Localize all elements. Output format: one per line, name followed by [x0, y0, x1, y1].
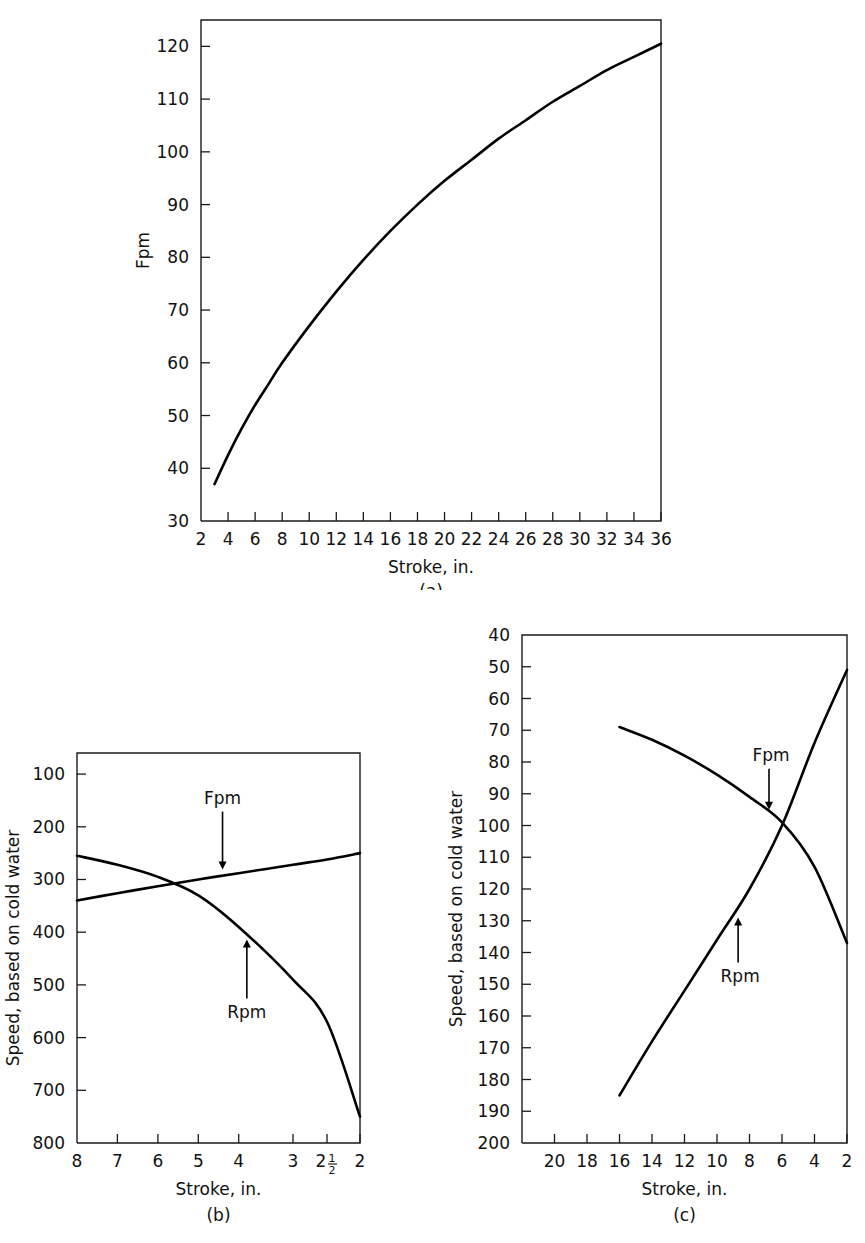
- y-tick-label-c: 170: [478, 1038, 510, 1058]
- series-label-rpm-b: Rpm: [227, 1002, 266, 1022]
- curve-rpm-b: [77, 856, 360, 1117]
- chart-panel-a: 3040506070809010011012024681012141618202…: [0, 0, 865, 590]
- y-tick-label-c: 110: [478, 847, 510, 867]
- x-tick-label-c: 4: [809, 1151, 820, 1171]
- curve-rpm-c: [620, 670, 848, 1095]
- y-tick-label-b: 100: [33, 764, 65, 784]
- rpm-arrow-b-head: [243, 939, 251, 947]
- curve-fpm-a: [215, 44, 661, 484]
- y-tick-label-b: 800: [33, 1133, 65, 1153]
- y-tick-label-a: 120: [157, 36, 189, 56]
- y-tick-label-a: 70: [167, 300, 189, 320]
- y-tick-label-a: 80: [167, 247, 189, 267]
- panel-caption-b: (b): [206, 1205, 230, 1225]
- y-tick-label-c: 150: [478, 974, 510, 994]
- figure-container: 3040506070809010011012024681012141618202…: [0, 0, 865, 1243]
- y-axis-title-c: Speed, based on cold water: [446, 791, 466, 1028]
- x-tick-label-c: 20: [544, 1151, 566, 1171]
- x-tick-label-c: 14: [641, 1151, 663, 1171]
- series-label-rpm-c: Rpm: [721, 966, 760, 986]
- series-label-fpm-b: Fpm: [204, 788, 241, 808]
- x-tick-label-b: 3: [288, 1151, 299, 1171]
- y-tick-label-a: 50: [167, 406, 189, 426]
- y-tick-label-c: 180: [478, 1070, 510, 1090]
- y-tick-label-a: 30: [167, 511, 189, 531]
- x-axis-title-b: Stroke, in.: [176, 1179, 262, 1199]
- y-tick-label-a: 40: [167, 458, 189, 478]
- x-tick-label-b: 7: [112, 1151, 123, 1171]
- x-tick-label-b: 2: [355, 1151, 366, 1171]
- x-tick-label-a: 2: [196, 529, 207, 549]
- x-tick-label-a: 6: [250, 529, 261, 549]
- y-tick-label-c: 70: [488, 720, 510, 740]
- series-label-fpm-c: Fpm: [752, 745, 789, 765]
- x-tick-label-b: 6: [152, 1151, 163, 1171]
- curve-fpm-b: [77, 853, 360, 900]
- plot-frame-a: [201, 20, 661, 521]
- x-tick-label-c: 8: [744, 1151, 755, 1171]
- x-tick-label-a: 14: [353, 529, 375, 549]
- y-tick-label-c: 100: [478, 816, 510, 836]
- y-tick-label-b: 600: [33, 1028, 65, 1048]
- x-tick-label-a: 34: [623, 529, 645, 549]
- y-tick-label-b: 500: [33, 975, 65, 995]
- x-tick-label-a: 30: [569, 529, 591, 549]
- x-axis-title-a: Stroke, in.: [388, 557, 474, 577]
- fpm-arrow-b-head: [219, 862, 227, 870]
- panel-caption-c: (c): [673, 1205, 696, 1225]
- y-tick-label-b: 400: [33, 922, 65, 942]
- x-tick-label-c: 16: [609, 1151, 631, 1171]
- x-tick-label-c: 6: [777, 1151, 788, 1171]
- y-tick-label-a: 90: [167, 195, 189, 215]
- chart-panel-c: 4050607080901001101201301401501601701801…: [430, 590, 865, 1243]
- x-tick-label-b: 5: [193, 1151, 204, 1171]
- x-tick-label-b: 8: [72, 1151, 83, 1171]
- curve-fpm-c: [620, 727, 848, 943]
- y-tick-label-a: 100: [157, 142, 189, 162]
- y-tick-label-c: 60: [488, 689, 510, 709]
- x-tick-label-a: 28: [542, 529, 564, 549]
- x-tick-label-a: 12: [325, 529, 347, 549]
- x-tick-label-c: 10: [706, 1151, 728, 1171]
- x-tick-label-b: 2: [316, 1151, 327, 1171]
- y-tick-label-c: 140: [478, 943, 510, 963]
- x-tick-label-a: 24: [488, 529, 510, 549]
- x-tick-label-c: 2: [842, 1151, 853, 1171]
- x-tick-label-a: 22: [461, 529, 483, 549]
- x-tick-label-b: 4: [233, 1151, 244, 1171]
- chart-panel-b: 1002003004005006007008008765432122Stroke…: [0, 590, 440, 1243]
- rpm-arrow-c-head: [734, 917, 742, 925]
- y-tick-label-c: 80: [488, 752, 510, 772]
- plot-frame-c: [522, 635, 847, 1143]
- x-tick-label-a: 26: [515, 529, 537, 549]
- y-tick-label-b: 700: [33, 1080, 65, 1100]
- x-tick-label-a: 16: [380, 529, 402, 549]
- x-tick-label-a: 32: [596, 529, 618, 549]
- x-tick-label-a: 18: [407, 529, 429, 549]
- x-tick-label-b-frac-den: 2: [329, 1164, 336, 1177]
- y-tick-label-c: 90: [488, 784, 510, 804]
- y-tick-label-c: 200: [478, 1133, 510, 1153]
- y-tick-label-c: 50: [488, 657, 510, 677]
- y-tick-label-c: 40: [488, 625, 510, 645]
- panel-caption-a: (a): [419, 581, 443, 590]
- x-tick-label-a: 4: [223, 529, 234, 549]
- y-tick-label-c: 120: [478, 879, 510, 899]
- x-tick-label-a: 8: [277, 529, 288, 549]
- y-tick-label-c: 160: [478, 1006, 510, 1026]
- y-tick-label-c: 190: [478, 1101, 510, 1121]
- y-axis-title-b: Speed, based on cold water: [3, 830, 23, 1067]
- x-tick-label-c: 12: [674, 1151, 696, 1171]
- y-tick-label-b: 200: [33, 817, 65, 837]
- x-tick-label-a: 10: [298, 529, 320, 549]
- y-tick-label-a: 60: [167, 353, 189, 373]
- plot-frame-b: [77, 753, 360, 1143]
- x-tick-label-c: 18: [576, 1151, 598, 1171]
- x-tick-label-a: 36: [650, 529, 672, 549]
- y-tick-label-c: 130: [478, 911, 510, 931]
- y-tick-label-b: 300: [33, 869, 65, 889]
- y-axis-title-a: Fpm: [133, 232, 153, 269]
- x-tick-label-a: 20: [434, 529, 456, 549]
- y-tick-label-a: 110: [157, 89, 189, 109]
- x-axis-title-c: Stroke, in.: [642, 1179, 728, 1199]
